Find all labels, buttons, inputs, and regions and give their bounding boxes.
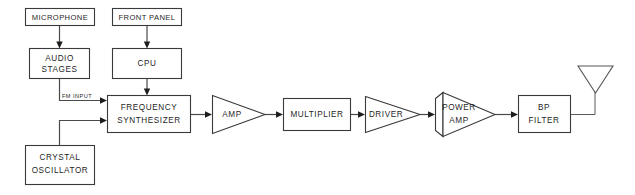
connector-cpu-to-frequency-synthesizer <box>144 79 150 96</box>
connector-multiplier-to-driver <box>351 111 366 117</box>
connector-crystal-oscillator-to-frequency-synthesizer <box>60 117 108 145</box>
block-power-amp[interactable]: POWER AMP <box>436 93 496 137</box>
connector-driver-to-power-amp <box>420 111 435 117</box>
connector-audio-stages-to-frequency-synthesizer <box>60 79 108 104</box>
block-multiplier[interactable]: MULTIPLIER <box>284 99 351 131</box>
block-front-panel-label: FRONT PANEL <box>119 13 176 22</box>
connector-power-amp-to-bp-filter <box>495 111 518 117</box>
connector-front-panel-to-cpu <box>144 26 150 49</box>
block-frequency-synthesizer-label-line2: SYNTHESIZER <box>117 116 180 125</box>
block-audio-stages-label-line1: AUDIO <box>45 54 74 63</box>
block-diagram-canvas: MICROPHONE FRONT PANEL AUDIO STAGES CPU … <box>0 0 635 195</box>
block-cpu[interactable]: CPU <box>113 49 182 79</box>
block-audio-stages[interactable]: AUDIO STAGES <box>30 49 90 79</box>
block-frequency-synthesizer-label-line1: FREQUENCY <box>121 103 177 112</box>
antenna-icon <box>578 66 613 93</box>
block-microphone-label: MICROPHONE <box>32 13 88 22</box>
block-driver-label: DRIVER <box>369 110 403 119</box>
block-power-amp-label-line2: AMP <box>449 116 468 125</box>
wire-label-fm-input: FM INPUT <box>62 93 92 99</box>
block-power-amp-label-line1: POWER <box>442 103 476 112</box>
block-bp-filter[interactable]: BP FILTER <box>519 96 571 133</box>
block-crystal-oscillator-label-line1: CRYSTAL <box>40 153 81 162</box>
block-multiplier-label: MULTIPLIER <box>290 110 343 119</box>
block-diagram-svg: MICROPHONE FRONT PANEL AUDIO STAGES CPU … <box>0 0 635 195</box>
connector-frequency-synthesizer-to-amp <box>191 111 213 117</box>
block-amp[interactable]: AMP <box>213 96 266 134</box>
block-audio-stages-label-line2: STAGES <box>42 65 78 74</box>
block-crystal-oscillator-label-line2: OSCILLATOR <box>32 166 89 175</box>
block-frequency-synthesizer[interactable]: FREQUENCY SYNTHESIZER <box>108 96 191 133</box>
block-crystal-oscillator[interactable]: CRYSTAL OSCILLATOR <box>26 146 95 185</box>
connector-amp-to-multiplier <box>265 111 283 117</box>
block-bp-filter-label-line1: BP <box>538 103 550 112</box>
block-front-panel[interactable]: FRONT PANEL <box>113 9 182 26</box>
block-bp-filter-label-line2: FILTER <box>529 116 560 125</box>
block-driver[interactable]: DRIVER <box>366 97 421 133</box>
block-microphone[interactable]: MICROPHONE <box>26 9 95 26</box>
connector-microphone-to-audio-stages <box>56 26 62 49</box>
block-cpu-label: CPU <box>138 59 157 68</box>
block-amp-label: AMP <box>222 110 241 119</box>
